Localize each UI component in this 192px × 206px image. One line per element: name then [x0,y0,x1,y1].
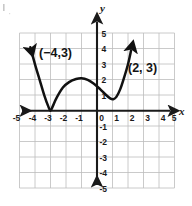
y-tick: -4 [100,168,108,178]
y-tick: 2 [102,75,107,85]
x-tick: 4 [161,113,166,123]
annotation-left-point: (−4,3) [39,46,72,60]
y-tick: -5 [100,184,108,194]
y-tick: -2 [100,137,108,147]
scan-artifact [3,4,10,14]
x-tick-labels: -5 -4 -3 -2 -1 0 1 2 3 4 5 [13,113,177,123]
coordinate-graph-figure: x y -5 -4 -3 -2 -1 0 1 2 3 4 5 5 4 3 2 1… [0,0,192,206]
y-tick: -1 [100,122,108,132]
graph-canvas: x y -5 -4 -3 -2 -1 0 1 2 3 4 5 5 4 3 2 1… [0,0,192,206]
x-tick: -4 [29,113,37,123]
x-tick: 5 [172,113,177,123]
x-tick: 1 [114,113,119,123]
y-tick: 3 [102,60,107,70]
x-tick: -3 [44,113,52,123]
y-axis-label: y [98,2,105,14]
x-axis-label: x [178,105,185,117]
x-tick: -1 [75,113,83,123]
y-tick: 4 [102,44,107,54]
annotation-right-point: (2, 3) [128,61,157,75]
x-tick: 3 [145,113,150,123]
x-tick: -2 [60,113,68,123]
x-tick: -5 [13,113,21,123]
y-tick: -3 [100,153,108,163]
y-tick: 5 [102,29,107,39]
x-tick: 2 [130,113,135,123]
